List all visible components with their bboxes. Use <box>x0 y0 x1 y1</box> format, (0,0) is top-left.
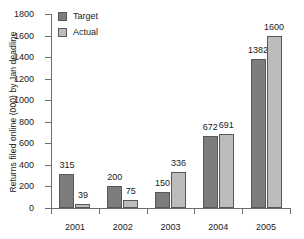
y-axis-tick <box>45 79 51 80</box>
chart-legend: Target Actual <box>58 10 98 42</box>
bar-value-label: 39 <box>66 191 100 200</box>
x-axis-category-label: 2001 <box>51 222 99 232</box>
y-axis-tick <box>45 100 51 101</box>
y-axis-tick-label: 600 <box>0 139 34 148</box>
y-axis-tick-label: 1600 <box>0 32 34 41</box>
x-axis-tick <box>194 208 195 214</box>
y-axis-tick-label: 800 <box>0 118 34 127</box>
legend-label-target: Target <box>73 12 98 21</box>
bar-target-2005 <box>251 59 266 208</box>
x-axis-category-label: 2002 <box>99 222 147 232</box>
y-axis-tick-label: 0 <box>0 204 34 213</box>
bar-actual-2002 <box>123 200 138 208</box>
y-axis-tick-label: 400 <box>0 161 34 170</box>
bar-target-2003 <box>155 192 170 208</box>
y-axis-tick-label: 1400 <box>0 53 34 62</box>
legend-swatch-actual-icon <box>58 28 67 37</box>
y-axis-title: Returns filed online (000) by Jan deadli… <box>8 17 18 207</box>
bar-value-label: 75 <box>114 187 148 196</box>
plot-area: 0200400600800100012001400160018002001315… <box>51 14 290 208</box>
x-axis-tick <box>99 208 100 214</box>
bar-actual-2004 <box>219 134 234 208</box>
bar-value-label: 1600 <box>257 23 291 32</box>
y-axis-tick-label: 1200 <box>0 75 34 84</box>
x-axis-tick <box>147 208 148 214</box>
bar-actual-2005 <box>267 36 282 208</box>
bar-actual-2003 <box>171 172 186 208</box>
x-axis-line <box>45 208 290 209</box>
x-axis-category-label: 2005 <box>242 222 290 232</box>
bar-value-label: 336 <box>162 159 196 168</box>
legend-item-actual: Actual <box>58 26 98 39</box>
legend-label-actual: Actual <box>73 28 98 37</box>
legend-item-target: Target <box>58 10 98 23</box>
x-axis-category-label: 2003 <box>147 222 195 232</box>
bar-value-label: 691 <box>209 121 243 130</box>
y-axis-tick <box>45 143 51 144</box>
y-axis-tick <box>45 57 51 58</box>
y-axis-tick <box>45 122 51 123</box>
y-axis-tick-label: 1000 <box>0 96 34 105</box>
bar-chart: Returns filed online (000) by Jan deadli… <box>0 0 304 239</box>
x-axis-tick <box>242 208 243 214</box>
bar-value-label: 200 <box>98 173 132 182</box>
y-axis-tick <box>45 14 51 15</box>
y-axis-tick <box>45 186 51 187</box>
bar-actual-2001 <box>75 204 90 208</box>
x-axis-category-label: 2004 <box>194 222 242 232</box>
y-axis-tick-label: 200 <box>0 182 34 191</box>
y-axis-tick <box>45 36 51 37</box>
x-axis-tick <box>290 208 291 214</box>
x-axis-tick <box>51 208 52 214</box>
legend-swatch-target-icon <box>58 12 67 21</box>
bar-value-label: 315 <box>50 161 84 170</box>
y-axis-tick-label: 1800 <box>0 10 34 19</box>
bar-target-2004 <box>203 136 218 208</box>
